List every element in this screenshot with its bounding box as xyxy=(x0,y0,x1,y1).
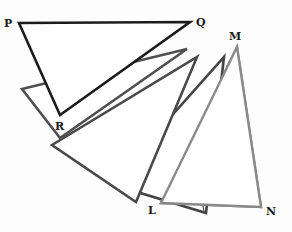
vertex-label-p: P xyxy=(4,17,12,30)
vertex-label-m: M xyxy=(229,30,241,43)
diagram-canvas: P Q R M L N xyxy=(0,0,292,232)
vertex-label-q: Q xyxy=(196,16,206,29)
vertex-label-n: N xyxy=(266,205,276,218)
vertex-label-l: L xyxy=(148,204,156,217)
triangles-diagram: P Q R M L N xyxy=(0,0,292,232)
vertex-label-r: R xyxy=(55,120,65,133)
